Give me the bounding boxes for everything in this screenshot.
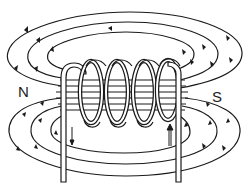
- solenoid-diagram: N S: [0, 0, 249, 189]
- current-arrow-down: [70, 127, 74, 145]
- core-field-lines: [56, 80, 188, 110]
- coil-turn-1: [80, 60, 106, 127]
- current-arrow-up: [167, 124, 173, 146]
- north-pole-label: N: [18, 84, 29, 99]
- coil-turns: [80, 59, 180, 127]
- south-pole-label: S: [212, 89, 222, 104]
- coil-turn-2: [106, 60, 132, 127]
